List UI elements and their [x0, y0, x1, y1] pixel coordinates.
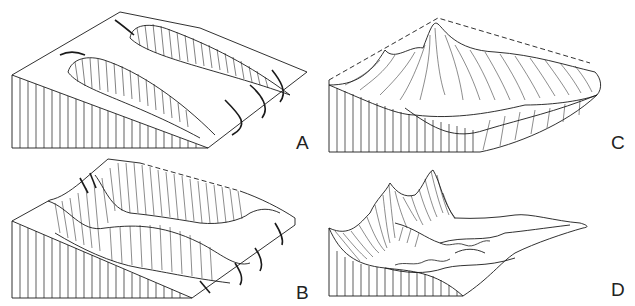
- panel-a: A: [0, 0, 320, 153]
- block-diagram-a: [0, 0, 320, 153]
- panel-c: C: [315, 0, 635, 153]
- panel-label-b: B: [296, 283, 309, 302]
- panel-b: B: [0, 153, 320, 306]
- block-diagram-d: [315, 153, 635, 306]
- block-diagram-c: [315, 0, 635, 153]
- panel-d: D: [315, 153, 635, 306]
- block-diagram-b: [0, 153, 320, 306]
- panel-label-d: D: [611, 280, 625, 299]
- panel-label-a: A: [296, 133, 309, 152]
- panel-label-c: C: [611, 133, 625, 152]
